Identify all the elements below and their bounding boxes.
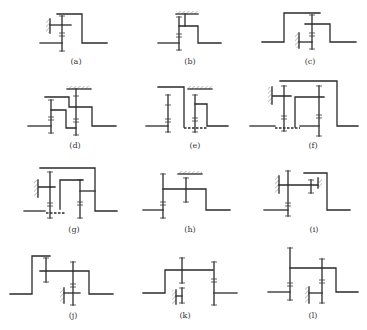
panel-h: (h) (143, 171, 230, 234)
panel-label: (a) (70, 57, 81, 66)
panel-c: (c) (262, 13, 356, 66)
panel-label: (b) (184, 57, 195, 66)
panel-label: (i) (310, 225, 319, 234)
panel-label: (c) (305, 57, 316, 66)
panel-f: (f) (250, 81, 358, 150)
panel-label: (j) (69, 311, 78, 320)
panel-k: (k) (143, 258, 237, 320)
gear-train-diagram: (a) (b) (c) (d) (0, 0, 367, 330)
panel-d: (d) (28, 86, 116, 150)
panel-label: (h) (184, 225, 195, 234)
panel-label: (l) (309, 311, 318, 320)
panel-label: (g) (68, 225, 79, 234)
panel-j: (j) (10, 256, 113, 320)
panel-l: (l) (268, 248, 358, 320)
panel-label: (k) (179, 311, 190, 320)
panel-label: (f) (308, 141, 317, 150)
panel-g: (g) (24, 168, 117, 234)
panel-label: (e) (190, 141, 201, 150)
panel-i: (i) (264, 171, 350, 234)
panel-b: (b) (158, 11, 221, 66)
panel-a: (a) (40, 14, 107, 66)
panel-e: (e) (146, 86, 228, 150)
panel-label: (d) (69, 141, 80, 150)
